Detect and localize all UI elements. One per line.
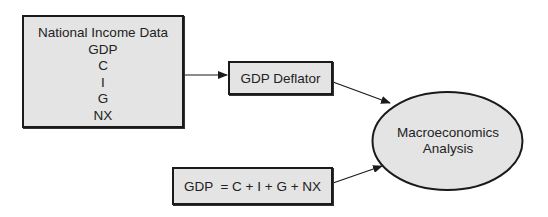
gdp-deflator-box: GDP Deflator	[228, 61, 333, 95]
national-income-title: National Income Data	[38, 25, 168, 42]
gdp-equation-box: GDP = C + I + G + NX	[172, 167, 333, 205]
macro-analysis-label: Macroeconomics Analysis	[372, 91, 524, 191]
macro-analysis-line1: Macroeconomics	[397, 125, 499, 141]
item-nx: NX	[94, 108, 113, 125]
national-income-data-box: National Income Data GDP C I G NX	[22, 15, 184, 128]
item-c: C	[98, 58, 108, 75]
macro-analysis-line2: Analysis	[423, 141, 473, 157]
gdp-equation-label: GDP = C + I + G + NX	[184, 179, 321, 194]
item-g: G	[98, 91, 109, 108]
gdp-deflator-label: GDP Deflator	[240, 71, 320, 86]
item-gdp: GDP	[88, 42, 117, 59]
item-i: I	[101, 75, 105, 92]
